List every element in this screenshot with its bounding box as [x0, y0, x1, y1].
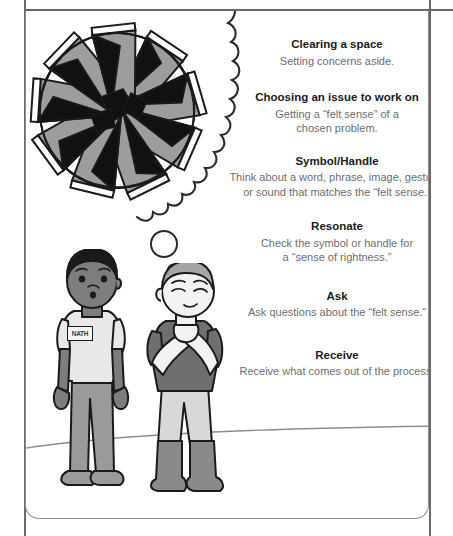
comic-panel: NATH	[25, 11, 429, 519]
step-title: Choosing an issue to work on	[218, 90, 429, 106]
step-choosing-an-issue: Choosing an issue to work on Getting a “…	[218, 90, 429, 136]
step-title: Ask	[218, 289, 429, 305]
name-badge: NATH	[67, 326, 93, 341]
step-resonate: Resonate Check the symbol or handle fora…	[218, 219, 429, 265]
step-body: Think about a word, phrase, image, gestu…	[209, 170, 429, 199]
step-title: Resonate	[218, 219, 429, 235]
screenshot-root: NATH	[0, 0, 453, 536]
step-title: Receive	[218, 348, 429, 364]
step-ask: Ask Ask questions about the “felt sense.…	[218, 289, 429, 320]
step-body: Ask questions about the “felt sense.”	[218, 305, 429, 320]
focusing-steps-list: Clearing a space Setting concerns aside.…	[218, 37, 429, 398]
step-receive: Receive Receive what comes out of the pr…	[218, 348, 429, 379]
step-body: Setting concerns aside.	[218, 54, 429, 69]
step-body: Getting a “felt sense” of achosen proble…	[218, 107, 429, 136]
step-symbol-handle: Symbol/Handle Think about a word, phrase…	[209, 154, 429, 200]
geometric-star-mandala	[25, 21, 212, 201]
step-title: Clearing a space	[218, 37, 429, 53]
outer-frame-right-edge	[429, 0, 431, 536]
step-body: Check the symbol or handle fora “sense o…	[218, 236, 429, 265]
step-clearing-a-space: Clearing a space Setting concerns aside.	[218, 37, 429, 68]
step-title: Symbol/Handle	[209, 154, 429, 170]
step-body: Receive what comes out of the process.	[218, 364, 429, 379]
standing-person	[44, 249, 144, 505]
